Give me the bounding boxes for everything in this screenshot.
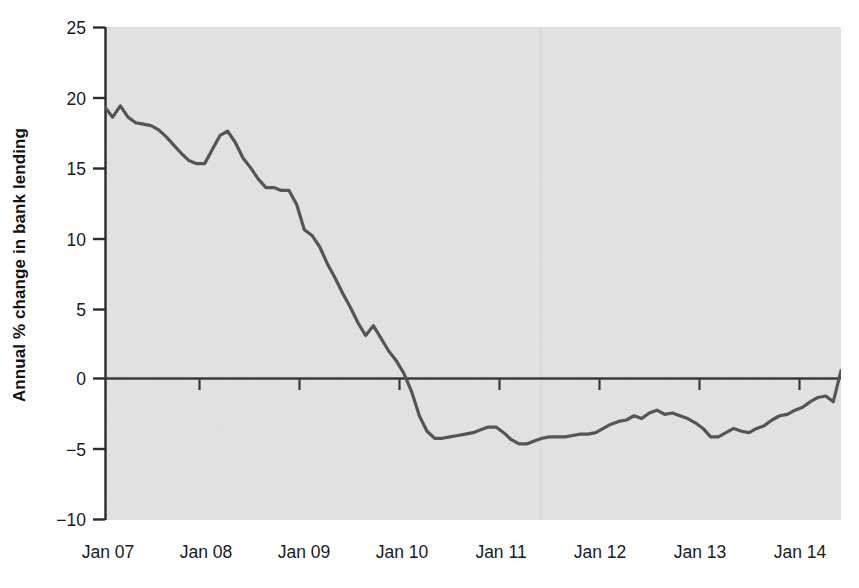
x-axis-tick-labels: Jan 07 Jan 08 Jan 09 Jan 10 Jan 11 Jan 1… (82, 542, 827, 562)
chart-figure: Annual % change in bank lending (0, 0, 859, 588)
x-tick-label: Jan 13 (674, 542, 727, 562)
x-tick-label: Jan 08 (180, 542, 233, 562)
y-tick-label: 20 (67, 89, 87, 109)
y-axis-tick-labels: 25 20 15 10 5 0 −5 −10 (56, 18, 86, 530)
y-tick-label: 15 (67, 159, 86, 179)
y-tick-label: 0 (76, 369, 86, 389)
y-tick-label: −10 (56, 510, 86, 530)
y-tick-label: 5 (76, 300, 86, 320)
x-tick-label: Jan 09 (278, 542, 331, 562)
y-tick-label: 25 (67, 18, 86, 38)
x-tick-label: Jan 14 (774, 542, 827, 562)
y-tick-label: 10 (67, 230, 87, 250)
plot-background-texture (105, 27, 841, 520)
y-axis-ticks (93, 28, 105, 520)
x-tick-label: Jan 11 (475, 542, 526, 562)
line-chart-plot: 25 20 15 10 5 0 −5 −10 Jan 07 J (0, 0, 859, 588)
x-tick-label: Jan 12 (574, 542, 627, 562)
y-tick-label: −5 (66, 440, 86, 460)
x-tick-label: Jan 10 (376, 542, 429, 562)
x-tick-label: Jan 07 (82, 542, 135, 562)
